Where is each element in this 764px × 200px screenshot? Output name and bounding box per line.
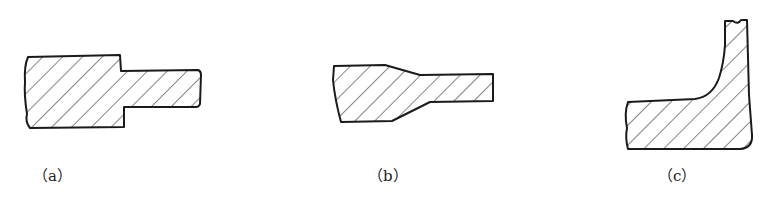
panel-label-b: （b）	[368, 164, 408, 185]
section-c-l-flange	[626, 20, 752, 149]
panel-label-c: （c）	[658, 164, 696, 185]
section-b-tapered-shaft	[333, 65, 493, 122]
section-a-stepped-shaft	[25, 55, 201, 128]
panel-label-a: （a）	[33, 164, 72, 185]
figure-canvas: （a） （b） （c）	[0, 0, 764, 200]
